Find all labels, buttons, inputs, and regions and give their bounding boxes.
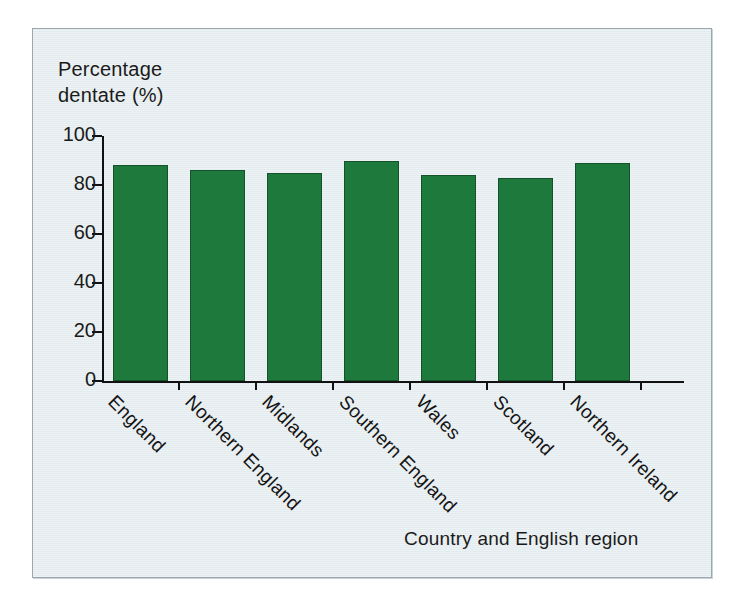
x-tick-mark — [640, 381, 642, 390]
y-tick-label: 20 — [74, 319, 96, 342]
bar — [498, 178, 553, 381]
y-tick-label: 60 — [74, 221, 96, 244]
y-tick-label: 100 — [63, 123, 96, 146]
bar — [267, 173, 322, 381]
x-tick-mark — [255, 381, 257, 390]
bar — [113, 165, 168, 381]
bar — [575, 163, 630, 381]
x-axis-line — [102, 381, 684, 383]
x-tick-mark — [332, 381, 334, 390]
y-tick-label: 80 — [74, 172, 96, 195]
x-axis-title: Country and English region — [404, 528, 638, 550]
y-tick-label: 0 — [85, 368, 96, 391]
bar — [190, 170, 245, 381]
x-tick-mark — [486, 381, 488, 390]
y-axis-title: Percentage dentate (%) — [58, 56, 164, 108]
y-tick-label: 40 — [74, 270, 96, 293]
x-tick-mark — [409, 381, 411, 390]
plot-area: 020406080100 — [102, 136, 684, 381]
x-tick-mark — [178, 381, 180, 390]
figure-canvas: Percentage dentate (%) 020406080100 Engl… — [0, 0, 736, 604]
y-axis-line — [102, 136, 104, 381]
x-tick-mark — [563, 381, 565, 390]
bar — [421, 175, 476, 381]
bar — [344, 161, 399, 382]
